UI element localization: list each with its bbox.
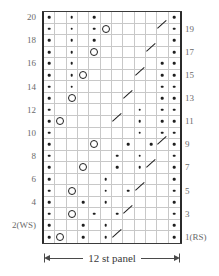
- stitch-cell[interactable]: [123, 12, 134, 24]
- stitch-cell[interactable]: [67, 162, 78, 174]
- stitch-cell[interactable]: [157, 197, 168, 209]
- stitch-cell[interactable]: [89, 185, 100, 197]
- stitch-cell[interactable]: [78, 208, 89, 220]
- stitch-cell[interactable]: [135, 128, 146, 140]
- stitch-cell[interactable]: [146, 81, 157, 93]
- stitch-cell[interactable]: [55, 231, 66, 243]
- stitch-cell[interactable]: [146, 231, 157, 243]
- stitch-cell[interactable]: [44, 104, 55, 116]
- stitch-cell[interactable]: [169, 93, 180, 105]
- stitch-cell[interactable]: [44, 93, 55, 105]
- stitch-cell[interactable]: [169, 151, 180, 163]
- stitch-cell[interactable]: [44, 162, 55, 174]
- stitch-cell[interactable]: [89, 93, 100, 105]
- stitch-cell[interactable]: [123, 128, 134, 140]
- stitch-cell[interactable]: [67, 116, 78, 128]
- stitch-cell[interactable]: [101, 162, 112, 174]
- stitch-cell[interactable]: [101, 24, 112, 36]
- stitch-cell[interactable]: [112, 162, 123, 174]
- stitch-cell[interactable]: [169, 197, 180, 209]
- stitch-cell[interactable]: [157, 47, 168, 59]
- stitch-cell[interactable]: [101, 93, 112, 105]
- stitch-cell[interactable]: [89, 151, 100, 163]
- stitch-cell[interactable]: [112, 208, 123, 220]
- stitch-cell[interactable]: [89, 174, 100, 186]
- stitch-cell[interactable]: [44, 139, 55, 151]
- stitch-cell[interactable]: [169, 128, 180, 140]
- stitch-cell[interactable]: [44, 116, 55, 128]
- stitch-cell[interactable]: [157, 58, 168, 70]
- stitch-cell[interactable]: [112, 231, 123, 243]
- stitch-cell[interactable]: [89, 220, 100, 232]
- stitch-cell[interactable]: [169, 185, 180, 197]
- stitch-cell[interactable]: [169, 220, 180, 232]
- stitch-cell[interactable]: [169, 116, 180, 128]
- stitch-cell[interactable]: [55, 220, 66, 232]
- stitch-cell[interactable]: [123, 35, 134, 47]
- stitch-cell[interactable]: [169, 162, 180, 174]
- stitch-cell[interactable]: [135, 220, 146, 232]
- stitch-cell[interactable]: [112, 174, 123, 186]
- stitch-cell[interactable]: [55, 12, 66, 24]
- stitch-cell[interactable]: [123, 208, 134, 220]
- stitch-cell[interactable]: [78, 35, 89, 47]
- stitch-cell[interactable]: [157, 231, 168, 243]
- stitch-cell[interactable]: [78, 12, 89, 24]
- stitch-cell[interactable]: [135, 12, 146, 24]
- stitch-cell[interactable]: [78, 197, 89, 209]
- stitch-cell[interactable]: [44, 47, 55, 59]
- stitch-cell[interactable]: [78, 47, 89, 59]
- stitch-cell[interactable]: [146, 58, 157, 70]
- stitch-cell[interactable]: [157, 116, 168, 128]
- stitch-cell[interactable]: [123, 70, 134, 82]
- stitch-cell[interactable]: [135, 162, 146, 174]
- stitch-cell[interactable]: [169, 58, 180, 70]
- stitch-cell[interactable]: [135, 208, 146, 220]
- stitch-cell[interactable]: [123, 231, 134, 243]
- stitch-cell[interactable]: [89, 162, 100, 174]
- stitch-cell[interactable]: [101, 104, 112, 116]
- stitch-cell[interactable]: [123, 174, 134, 186]
- stitch-cell[interactable]: [169, 47, 180, 59]
- stitch-cell[interactable]: [146, 197, 157, 209]
- stitch-cell[interactable]: [112, 12, 123, 24]
- stitch-cell[interactable]: [44, 174, 55, 186]
- stitch-cell[interactable]: [146, 185, 157, 197]
- stitch-cell[interactable]: [157, 70, 168, 82]
- stitch-cell[interactable]: [89, 197, 100, 209]
- stitch-cell[interactable]: [101, 12, 112, 24]
- stitch-cell[interactable]: [67, 174, 78, 186]
- stitch-cell[interactable]: [123, 116, 134, 128]
- stitch-cell[interactable]: [135, 139, 146, 151]
- stitch-cell[interactable]: [67, 231, 78, 243]
- stitch-cell[interactable]: [67, 81, 78, 93]
- stitch-cell[interactable]: [89, 128, 100, 140]
- stitch-cell[interactable]: [55, 104, 66, 116]
- stitch-cell[interactable]: [89, 81, 100, 93]
- stitch-cell[interactable]: [135, 104, 146, 116]
- stitch-cell[interactable]: [89, 116, 100, 128]
- stitch-cell[interactable]: [89, 104, 100, 116]
- stitch-cell[interactable]: [55, 162, 66, 174]
- stitch-cell[interactable]: [101, 70, 112, 82]
- stitch-cell[interactable]: [157, 174, 168, 186]
- stitch-cell[interactable]: [146, 104, 157, 116]
- stitch-cell[interactable]: [112, 116, 123, 128]
- stitch-cell[interactable]: [135, 47, 146, 59]
- stitch-cell[interactable]: [101, 231, 112, 243]
- stitch-cell[interactable]: [44, 151, 55, 163]
- stitch-cell[interactable]: [146, 12, 157, 24]
- stitch-cell[interactable]: [78, 104, 89, 116]
- stitch-cell[interactable]: [44, 81, 55, 93]
- stitch-cell[interactable]: [112, 197, 123, 209]
- stitch-cell[interactable]: [78, 93, 89, 105]
- stitch-cell[interactable]: [146, 220, 157, 232]
- stitch-cell[interactable]: [55, 185, 66, 197]
- stitch-cell[interactable]: [101, 151, 112, 163]
- stitch-cell[interactable]: [157, 35, 168, 47]
- stitch-cell[interactable]: [101, 220, 112, 232]
- stitch-cell[interactable]: [101, 58, 112, 70]
- stitch-cell[interactable]: [123, 24, 134, 36]
- stitch-cell[interactable]: [169, 70, 180, 82]
- stitch-cell[interactable]: [135, 24, 146, 36]
